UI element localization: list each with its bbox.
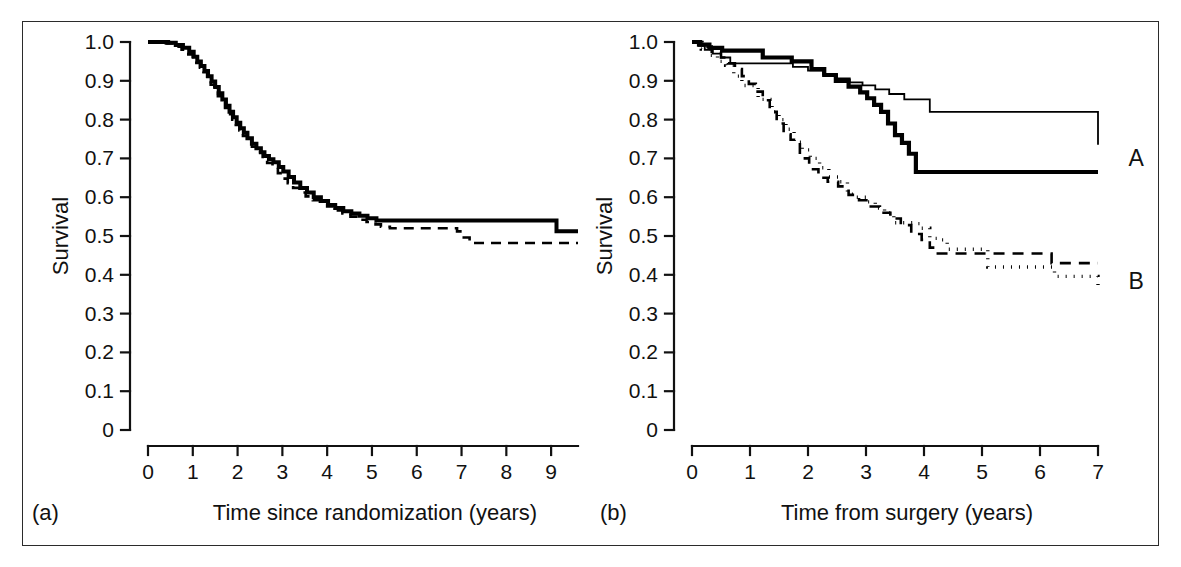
y-tick-label: 0.5	[85, 224, 114, 247]
y-tick-label: 0.7	[85, 146, 114, 169]
x-tick-label: 4	[321, 460, 333, 483]
x-tick-label: 1	[744, 460, 756, 483]
y-tick-label: 0.4	[629, 263, 659, 286]
x-tick-label: 0	[686, 460, 698, 483]
x-tick-label: 4	[918, 460, 930, 483]
curve-b-3	[692, 42, 1098, 288]
x-tick-label: 3	[860, 460, 872, 483]
panel-a-plot: 1.00.90.80.70.60.50.40.30.20.10Survival0…	[22, 0, 602, 567]
y-tick-label: 0.5	[629, 224, 658, 247]
curve-b-2	[692, 42, 1098, 263]
x-tick-label: 3	[277, 460, 289, 483]
y-tick-label: 0.8	[85, 108, 114, 131]
y-tick-label: 0.1	[85, 379, 114, 402]
y-tick-label: 0.1	[629, 379, 658, 402]
y-tick-label: 0.9	[629, 69, 658, 92]
y-axis-title: Survival	[48, 197, 73, 275]
x-tick-label: 5	[366, 460, 378, 483]
y-tick-label: 0	[646, 418, 658, 441]
x-tick-label: 9	[545, 460, 557, 483]
y-tick-label: 0.3	[85, 302, 114, 325]
y-tick-label: 0.4	[85, 263, 115, 286]
x-tick-label: 6	[411, 460, 423, 483]
x-tick-label: 0	[142, 460, 154, 483]
curve-b-0	[692, 42, 1098, 172]
curve-label-b: B	[1129, 268, 1144, 294]
y-tick-label: 1.0	[629, 30, 658, 53]
figure-root: 1.00.90.80.70.60.50.40.30.20.10Survival0…	[0, 0, 1181, 567]
panel-b: 1.00.90.80.70.60.50.40.30.20.10Survival0…	[590, 0, 1170, 567]
y-tick-label: 0.9	[85, 69, 114, 92]
panel-letter: (b)	[600, 500, 627, 525]
x-axis-title: Time from surgery (years)	[781, 500, 1033, 525]
x-axis-title: Time since randomization (years)	[213, 500, 537, 525]
panel-a: 1.00.90.80.70.60.50.40.30.20.10Survival0…	[22, 0, 602, 567]
y-tick-label: 0.6	[629, 185, 658, 208]
y-tick-label: 0.3	[629, 302, 658, 325]
y-tick-label: 0.7	[629, 146, 658, 169]
x-tick-label: 2	[232, 460, 244, 483]
panel-b-plot: 1.00.90.80.70.60.50.40.30.20.10Survival0…	[590, 0, 1170, 567]
y-axis-title: Survival	[592, 197, 617, 275]
y-tick-label: 0.2	[85, 340, 114, 363]
curve-a-0	[148, 42, 578, 231]
x-tick-label: 6	[1034, 460, 1046, 483]
y-tick-label: 0	[102, 418, 114, 441]
y-tick-label: 1.0	[85, 30, 114, 53]
panel-letter: (a)	[32, 500, 59, 525]
curve-a-1	[148, 42, 578, 243]
x-tick-label: 7	[456, 460, 468, 483]
x-tick-label: 8	[500, 460, 512, 483]
curve-label-a: A	[1129, 145, 1145, 171]
x-tick-label: 2	[802, 460, 814, 483]
y-tick-label: 0.8	[629, 108, 658, 131]
x-tick-label: 5	[976, 460, 988, 483]
x-tick-label: 1	[187, 460, 199, 483]
x-tick-label: 7	[1092, 460, 1104, 483]
y-tick-label: 0.6	[85, 185, 114, 208]
y-tick-label: 0.2	[629, 340, 658, 363]
